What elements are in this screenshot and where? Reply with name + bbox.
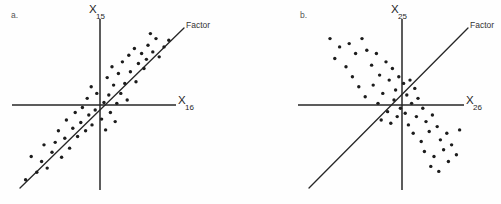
data-point — [416, 97, 419, 100]
data-point — [381, 92, 384, 95]
panel-b-factor-line-group — [309, 28, 468, 188]
data-point — [431, 113, 434, 116]
data-point — [107, 93, 110, 96]
panel-a-x-axis-label-group: X 16 — [178, 94, 194, 112]
data-point — [71, 127, 74, 130]
panel-a-letter: a. — [11, 10, 18, 20]
data-point — [133, 47, 136, 50]
data-point — [119, 92, 122, 95]
panel-b-y-axis-label-group: X 25 — [391, 3, 407, 21]
data-point — [123, 82, 126, 85]
data-point — [447, 160, 450, 163]
panel-b-scatter-chart: b. X 25 X 26 Factor — [250, 0, 501, 204]
data-point — [420, 140, 423, 143]
data-point — [380, 118, 383, 121]
data-point — [439, 138, 442, 141]
data-point — [365, 49, 368, 52]
data-point — [68, 146, 71, 149]
data-point — [129, 70, 132, 73]
data-point — [149, 32, 152, 35]
data-point — [90, 123, 93, 126]
data-point — [372, 83, 375, 86]
data-point — [370, 63, 373, 66]
data-point — [112, 83, 115, 86]
data-point — [106, 76, 109, 79]
panel-a-axes — [12, 19, 176, 190]
data-point — [65, 118, 68, 121]
data-point — [351, 75, 354, 78]
data-point — [375, 52, 378, 55]
data-point — [392, 98, 395, 101]
panel-a-datapoints — [24, 32, 171, 181]
data-point — [437, 170, 440, 173]
figure-container: a. X 15 X 16 Factor b. — [0, 0, 501, 204]
data-point — [35, 171, 38, 174]
data-point — [338, 45, 341, 48]
data-point — [102, 101, 105, 104]
data-point — [415, 115, 418, 118]
data-point — [154, 37, 157, 40]
data-point — [86, 97, 89, 100]
data-point — [151, 50, 154, 53]
data-point — [126, 98, 129, 101]
data-point — [74, 111, 77, 114]
data-point — [90, 85, 93, 88]
panel-a-y-axis-label-subscript: 15 — [96, 12, 105, 21]
data-point — [386, 110, 389, 113]
data-point — [142, 67, 145, 70]
data-point — [79, 121, 82, 124]
panel-a-y-axis-label-group: X 15 — [89, 3, 105, 21]
data-point — [394, 88, 397, 91]
data-point — [110, 65, 113, 68]
data-point — [87, 113, 90, 116]
data-point — [378, 73, 381, 76]
data-point — [95, 92, 98, 95]
data-point — [412, 132, 415, 135]
data-point — [424, 120, 427, 123]
panel-b-axes — [298, 19, 464, 190]
data-point — [357, 85, 360, 88]
panel-a-factor-line — [20, 28, 184, 188]
data-point — [104, 128, 107, 131]
data-point — [396, 115, 399, 118]
data-point — [429, 165, 432, 168]
data-point — [348, 42, 351, 45]
data-point — [137, 62, 140, 65]
data-point — [458, 128, 461, 131]
data-point — [405, 93, 408, 96]
data-point — [42, 143, 45, 146]
data-point — [354, 52, 357, 55]
data-point — [121, 60, 124, 63]
data-point — [442, 148, 445, 151]
data-point — [50, 151, 53, 154]
data-point — [60, 156, 63, 159]
panel-a-factor-line-group — [20, 28, 184, 188]
data-point — [421, 107, 424, 110]
data-point — [30, 155, 33, 158]
data-point — [450, 143, 453, 146]
panel-b-factor-line — [309, 28, 468, 188]
panel-a-scatter-chart: a. X 15 X 16 Factor — [0, 0, 250, 204]
data-point — [333, 57, 336, 60]
data-point — [344, 65, 347, 68]
data-point — [115, 102, 118, 105]
data-point — [391, 67, 394, 70]
data-point — [407, 123, 410, 126]
data-point — [100, 117, 103, 120]
data-point — [167, 39, 170, 42]
data-point — [57, 129, 60, 132]
data-point — [40, 160, 43, 163]
data-point — [63, 137, 66, 140]
data-point — [46, 166, 49, 169]
data-point — [146, 44, 149, 47]
data-point — [455, 153, 458, 156]
data-point — [432, 155, 435, 158]
panel-b-x-axis-label-subscript: 26 — [473, 103, 482, 112]
data-point — [436, 125, 439, 128]
data-point — [94, 108, 97, 111]
data-point — [76, 135, 79, 138]
data-point — [360, 37, 363, 40]
data-point — [364, 95, 367, 98]
panel-b-letter: b. — [300, 10, 307, 20]
data-point — [328, 37, 331, 40]
